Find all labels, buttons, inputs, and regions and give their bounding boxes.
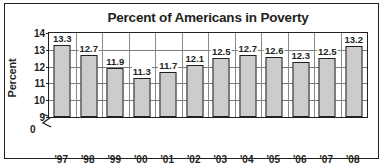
x-axis-tick-label: '00 <box>134 154 148 163</box>
x-axis-tick-label: '01 <box>160 154 174 163</box>
x-axis-tick-label: '08 <box>346 154 360 163</box>
x-axis-tick-label: '97 <box>54 154 68 163</box>
poverty-bar-chart: Percent of Americans in Poverty Percent … <box>0 0 383 163</box>
y-axis-tick-label: 14 <box>34 28 45 39</box>
y-axis-tick-label: 11 <box>34 78 45 89</box>
y-axis-zero-label: 0 <box>30 124 36 135</box>
x-axis-tick-label: '98 <box>81 154 95 163</box>
y-axis-tick-label: 13 <box>34 44 45 55</box>
x-axis-tick-label: '03 <box>213 154 227 163</box>
x-axis-tick-label: '06 <box>293 154 307 163</box>
x-axis-tick-label: '99 <box>107 154 121 163</box>
x-axis-tick-label: '04 <box>240 154 254 163</box>
y-axis-title: Percent <box>6 50 18 106</box>
x-axis-labels: '97'98'99'00'01'02'03'04'05'06'07'08 <box>48 32 368 118</box>
x-axis-tick-label: '02 <box>187 154 201 163</box>
chart-title: Percent of Americans in Poverty <box>48 10 368 25</box>
x-axis-tick-label: '07 <box>319 154 333 163</box>
x-axis-tick-label: '05 <box>266 154 280 163</box>
y-axis-tick-label: 12 <box>34 61 45 72</box>
y-axis-tick-label: 9 <box>39 112 45 123</box>
y-axis-tick-label: 10 <box>34 95 45 106</box>
